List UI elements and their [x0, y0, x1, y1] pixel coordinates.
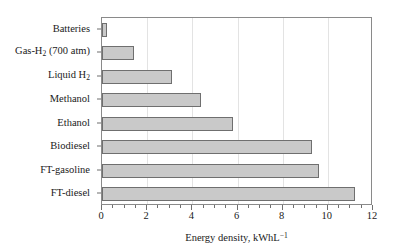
bar-row: [102, 18, 107, 42]
bar-row: [102, 65, 172, 89]
bar: [102, 93, 201, 107]
y-axis-tick-label: Batteries: [53, 24, 90, 35]
bars-group: [102, 18, 371, 204]
bar: [102, 46, 134, 60]
bar-row: [102, 159, 319, 183]
bar: [102, 117, 233, 131]
bar: [102, 187, 355, 201]
bar-row: [102, 136, 312, 160]
bar-row: [102, 183, 355, 206]
bar-chart: BatteriesGas-H2 (700 atm)Liquid H2Methan…: [0, 0, 396, 252]
bar: [102, 140, 312, 154]
x-axis-tick-label: 6: [234, 211, 239, 222]
x-axis-tick-label: 10: [322, 211, 333, 222]
bar-row: [102, 89, 201, 113]
bar-row: [102, 42, 134, 66]
y-axis-tick-label: Ethanol: [57, 118, 90, 129]
x-axis-title: Energy density, kWhL−1: [101, 232, 372, 244]
plot-area: [101, 17, 372, 205]
x-axis-tick-label: 8: [279, 211, 284, 222]
bar: [102, 23, 107, 37]
y-axis-tick-label: FT-gasoline: [40, 165, 90, 176]
x-axis-tick-label: 2: [144, 211, 149, 222]
x-axis-tick-label: 4: [189, 211, 194, 222]
y-axis: BatteriesGas-H2 (700 atm)Liquid H2Methan…: [0, 17, 97, 205]
bar-row: [102, 112, 233, 136]
y-axis-tick-label: Biodiesel: [50, 141, 90, 152]
x-axis-tick-label: 0: [98, 211, 103, 222]
y-axis-tick-label: Methanol: [50, 94, 90, 105]
y-axis-tick-label: Liquid H2: [48, 70, 90, 81]
y-axis-tick-label: FT-diesel: [51, 188, 90, 199]
x-axis-tick-label: 12: [367, 211, 378, 222]
bar: [102, 70, 172, 84]
y-axis-tick-label: Gas-H2 (700 atm): [15, 47, 90, 58]
bar: [102, 164, 319, 178]
